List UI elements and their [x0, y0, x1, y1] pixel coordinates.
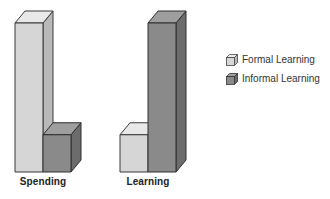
legend-item-formal: Formal Learning — [226, 50, 320, 69]
bar-chart — [0, 0, 330, 199]
category-label-spending: Spending — [20, 176, 66, 187]
bar-learning-formal-learning — [120, 135, 148, 172]
category-label-learning: Learning — [126, 176, 169, 187]
formal-cube-icon — [226, 54, 238, 66]
informal-cube-icon — [226, 73, 238, 85]
bar-side-learning-informal-learning — [176, 11, 186, 172]
legend-item-informal: Informal Learning — [226, 69, 320, 88]
bar-spending-informal-learning — [43, 135, 71, 172]
legend-label-informal: Informal Learning — [242, 73, 320, 84]
legend: Formal Learning Informal Learning — [226, 50, 320, 88]
bar-spending-formal-learning — [15, 23, 43, 172]
legend-label-formal: Formal Learning — [242, 54, 315, 65]
bar-learning-informal-learning — [148, 23, 176, 172]
